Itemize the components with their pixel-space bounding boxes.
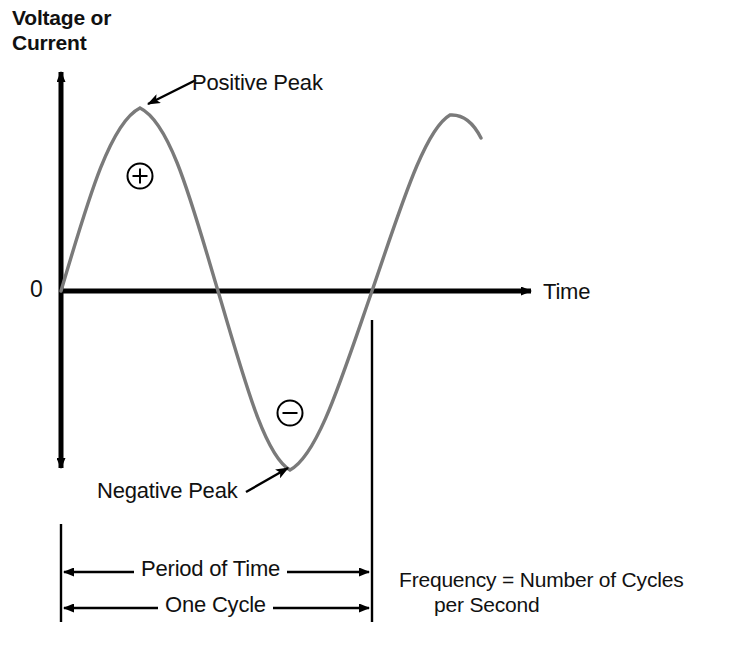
frequency-definition-note: Frequency = Number of Cyclesper Second <box>399 568 683 618</box>
y-axis-title-line2: Current <box>12 31 86 54</box>
negative-polarity-symbol <box>278 401 303 426</box>
diagram-canvas <box>0 0 744 652</box>
positive-peak-label: Positive Peak <box>192 70 323 96</box>
origin-label: 0 <box>30 276 43 303</box>
period-of-time-label: Period of Time <box>134 556 287 582</box>
frequency-note-line1: Frequency = Number of Cycles <box>399 568 683 591</box>
frequency-note-line2: per Second <box>399 593 683 618</box>
y-axis-title-line1: Voltage or <box>12 6 111 29</box>
one-cycle-label: One Cycle <box>158 592 273 618</box>
positive-polarity-symbol <box>128 164 153 189</box>
y-axis-title: Voltage orCurrent <box>12 6 111 56</box>
negative-peak-label: Negative Peak <box>97 478 238 504</box>
sine-wave-figure: Voltage orCurrent 0 Time Positive Peak N… <box>0 0 744 652</box>
positive-peak-leader-arrow <box>148 80 196 104</box>
negative-peak-leader-arrow <box>246 468 288 492</box>
x-axis-label: Time <box>543 279 590 305</box>
